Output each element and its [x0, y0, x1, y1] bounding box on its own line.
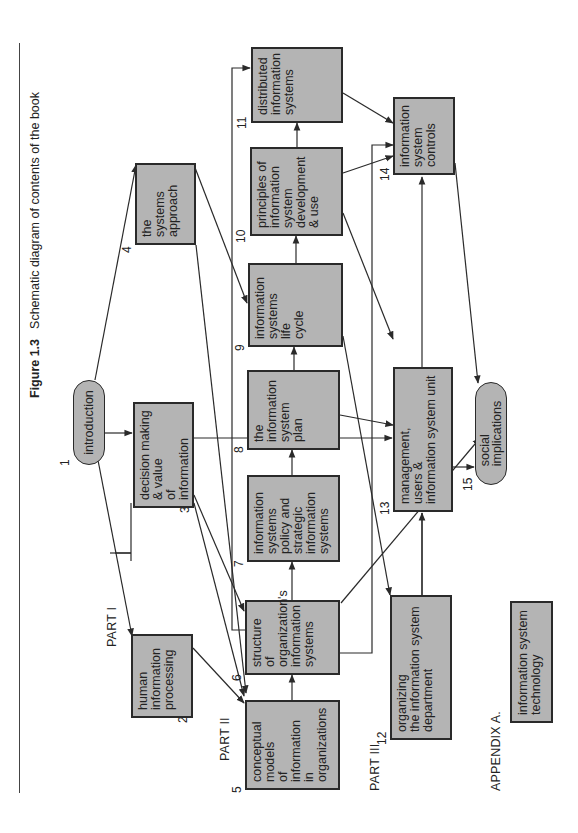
node-information-system-technology: information system technology [510, 601, 553, 723]
node-8-label: the information system plan [253, 378, 305, 442]
node-9-label: information systems life cycle [254, 271, 306, 339]
node-social-implications: social implications [475, 382, 507, 485]
node-14-number: 14 [378, 168, 392, 181]
node-12-number: 12 [375, 732, 389, 745]
node-structure-of-organizations-information-systems: structure of organization's information … [245, 600, 340, 675]
node-10-label: principles of information system develop… [256, 155, 321, 228]
appendix-a-label: information system technology [517, 609, 543, 715]
node-4-label: the systems approach [141, 171, 180, 237]
node-5-label: conceptual models of information in orga… [251, 708, 329, 782]
node-information-system-plan: the information system plan [247, 370, 340, 450]
node-6-number: 6 [230, 674, 244, 681]
node-organizing-is-department: organizing the information system depart… [390, 595, 452, 740]
node-introduction-label: introduction [83, 390, 96, 455]
node-principles-of-development: principles of information system develop… [250, 147, 343, 236]
node-information-systems-policy: information systems policy and strategic… [247, 475, 340, 562]
node-11-number: 11 [235, 117, 249, 129]
node-13-label: management, users & information system u… [399, 375, 438, 504]
node-decision-making: decision making & value of information [133, 402, 194, 508]
node-15-number: 15 [461, 478, 475, 491]
node-8-number: 8 [232, 446, 246, 453]
node-3-label: decision making & value of information [139, 410, 191, 500]
node-distributed-information-systems: distributed information systems [251, 47, 343, 123]
node-2-label: human information processing [137, 642, 176, 710]
node-introduction: introduction [73, 380, 105, 465]
node-10-number: 10 [234, 230, 248, 243]
node-conceptual-models: conceptual models of information in orga… [245, 700, 340, 790]
node-13-number: 13 [378, 502, 392, 515]
node-information-system-controls: information system controls [393, 97, 455, 175]
node-information-systems-life-cycle: information systems life cycle [248, 263, 343, 347]
rotated-figure-page: Figure 1.3Schematic diagram of contents … [0, 0, 578, 833]
node-14-label: information system controls [399, 105, 438, 167]
node-7-label: information systems policy and strategic… [253, 483, 331, 554]
node-5-number: 5 [230, 786, 244, 793]
node-11-label: distributed information systems [257, 55, 296, 115]
node-human-information-processing: human information processing [131, 634, 193, 718]
node-12-label: organizing the information system depart… [396, 603, 435, 732]
node-7-number: 7 [232, 560, 246, 567]
node-15-label: social implications [479, 401, 503, 466]
node-1-number: 1 [58, 459, 72, 466]
node-management-users-is-unit: management, users & information system u… [393, 367, 453, 512]
node-systems-approach: the systems approach [135, 163, 196, 245]
node-9-number: 9 [233, 344, 247, 351]
node-6-label: structure of organization's information … [251, 608, 316, 667]
node-4-number: 4 [120, 246, 134, 253]
